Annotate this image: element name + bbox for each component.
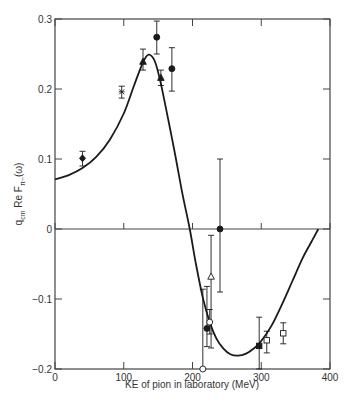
data-point-diamond-filled [80,151,86,166]
circle-marker [154,34,160,40]
x-tick-label: 0 [52,372,58,383]
x-tick-label: 400 [322,372,339,383]
theory-curve-path [55,55,318,356]
y-ticks: 0.30.20.10−0.1−0.2 [32,14,330,375]
x-ticks: 0100200300400 [52,19,339,383]
data-point-circle-filled [154,21,160,54]
diamond-marker [80,155,86,162]
theory-curve [55,55,318,356]
plot-frame [55,19,330,369]
chart: 0100200300400 0.30.20.10−0.1−0.2 KE of p… [0,0,350,409]
data-point-square-open [264,331,270,353]
y-tick-label: 0 [46,224,52,235]
triangle-marker [208,273,215,279]
y-tick-label: −0.1 [32,294,52,305]
y-tick-label: 0.3 [38,14,52,25]
data-point-circle-filled [169,48,175,91]
square-marker [256,343,261,348]
data-point-square-filled [256,317,262,369]
x-axis-title: KE of pion in laboratory (MeV) [125,379,259,390]
y-tick-label: 0.2 [38,84,52,95]
data-point-circle-filled [204,286,210,346]
data-point-star [119,86,125,98]
square-marker [281,331,286,336]
circle-marker [200,366,206,372]
y-axis-title: qcm Re Fπ−(ω) [13,163,26,226]
circle-marker [207,319,213,325]
y-tick-label: −0.2 [32,364,52,375]
data-point-square-open [280,323,286,344]
circle-marker [169,66,175,72]
square-marker [264,338,269,343]
data-point-circle-filled [217,159,223,292]
circle-marker [204,325,210,331]
plot-border [55,19,330,369]
y-tick-label: 0.1 [38,154,52,165]
circle-marker [217,226,223,232]
